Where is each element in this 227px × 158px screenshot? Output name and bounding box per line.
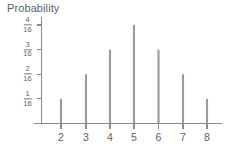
fraction-numerator: 2 xyxy=(24,66,30,74)
fraction-numerator: 1 xyxy=(24,90,30,98)
x-tick-label: 5 xyxy=(131,131,137,143)
y-tick-label: 116 xyxy=(22,90,32,107)
x-tick-label: 7 xyxy=(180,131,186,143)
fraction-denominator: 16 xyxy=(22,75,32,83)
x-tick-marks xyxy=(61,124,207,129)
x-tick-label: 6 xyxy=(156,131,162,143)
x-tick-label: 4 xyxy=(107,131,113,143)
stem-lines xyxy=(61,25,207,124)
fraction-numerator: 4 xyxy=(24,16,30,24)
x-tick-labels: 2345678 xyxy=(58,131,210,143)
y-tick-label: 416 xyxy=(22,16,32,33)
fraction-numerator: 3 xyxy=(24,41,30,49)
x-tick-label: 2 xyxy=(58,131,64,143)
y-tick-marks xyxy=(37,25,42,99)
x-tick-label: 8 xyxy=(204,131,210,143)
x-tick-label: 3 xyxy=(83,131,89,143)
fraction-denominator: 16 xyxy=(22,26,32,34)
fraction-denominator: 16 xyxy=(22,51,32,59)
y-tick-label: 316 xyxy=(22,41,32,58)
probability-stem-chart: Probability 2345678 116216316416 xyxy=(0,0,227,158)
y-tick-label: 216 xyxy=(22,66,32,83)
plot-area: 2345678 xyxy=(0,0,227,158)
fraction-denominator: 16 xyxy=(22,100,32,108)
